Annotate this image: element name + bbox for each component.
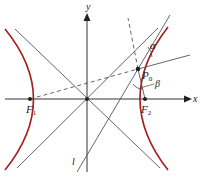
beta-label: β <box>154 78 160 89</box>
f1-label: F1 <box>25 103 37 117</box>
y-axis-arrow-icon <box>84 13 91 21</box>
focal-line-f1-p0 <box>30 69 138 99</box>
focal-line-f2-extension <box>128 18 138 69</box>
p0-point <box>136 67 141 72</box>
tangent-line-l <box>77 15 170 172</box>
tangent-line-label: l <box>72 156 75 167</box>
alpha-label: α <box>150 40 156 51</box>
focal-line-extension <box>138 55 190 69</box>
focus-f2-point <box>143 97 147 101</box>
hyperbola-diagram: x y F1 F2 P0 α β l <box>0 0 200 193</box>
focus-f1-point <box>28 97 32 101</box>
y-axis-label: y <box>85 1 91 12</box>
origin-point <box>85 97 89 101</box>
f2-label: F2 <box>140 103 152 117</box>
x-axis-label: x <box>192 93 198 104</box>
x-axis-arrow-icon <box>184 96 192 103</box>
p0-label: P0 <box>141 69 153 83</box>
